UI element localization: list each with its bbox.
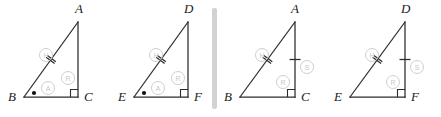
triangle-1-angle-dot-marker: [32, 91, 36, 95]
triangle-2-vertex-label-e: E: [117, 89, 126, 104]
triangle-3-vertex-label-a: A: [290, 1, 299, 16]
triangle-1-circled-letter-a: A: [42, 82, 55, 95]
triangle-2-vertex-label-f: F: [193, 89, 203, 104]
triangle-4-vertex-label-d: D: [400, 1, 411, 16]
triangle-3-circled-letter-r: R: [277, 76, 290, 89]
triangle-2: HARDEF: [117, 1, 203, 104]
triangle-4-hypotenuse-edge: [350, 22, 405, 97]
triangle-3-vertex-label-c: C: [301, 89, 310, 104]
triangle-2-circled-letter-r: R: [172, 72, 185, 85]
triangle-4-vertex-label-f: F: [410, 89, 420, 104]
triangle-4-circled-letter-s: S: [411, 61, 424, 74]
triangle-3-circled-letter-h: H: [256, 49, 269, 62]
triangle-4-circled-letter-h: H: [366, 49, 379, 62]
triangle-1-vertex-label-b: B: [8, 89, 16, 104]
triangle-3: HSRABC: [224, 1, 314, 104]
vertical-divider: [212, 8, 217, 109]
circled-letter-s-text: S: [415, 64, 420, 71]
circled-letter-h-text: H: [259, 52, 264, 59]
triangle-2-circled-letter-a: A: [152, 82, 165, 95]
triangle-1-circled-letter-r: R: [62, 72, 75, 85]
triangle-4-circled-letter-r: R: [387, 76, 400, 89]
triangle-3-hypotenuse-edge: [240, 22, 295, 97]
geometry-figure-canvas: HARABCHARDEFHSRABCHSRDEF: [0, 0, 441, 117]
triangle-2-right-angle-marker: [181, 90, 189, 98]
triangle-1-circled-letter-h: H: [40, 49, 53, 62]
triangle-2-vertex-label-d: D: [183, 1, 194, 16]
triangle-2-angle-dot-marker: [142, 91, 146, 95]
circled-letter-r-text: R: [280, 79, 285, 86]
triangle-3-vertex-label-b: B: [224, 89, 232, 104]
triangle-congruence-diagram: HARABCHARDEFHSRABCHSRDEF: [0, 0, 441, 117]
circled-letter-s-text: S: [305, 64, 310, 71]
triangle-3-circled-letter-s: S: [301, 61, 314, 74]
circled-letter-h-text: H: [153, 52, 158, 59]
triangle-1-right-angle-marker: [71, 90, 79, 98]
circled-letter-a-text: A: [156, 85, 161, 92]
triangle-1-vertex-label-c: C: [84, 89, 93, 104]
triangle-4: HSRDEF: [333, 1, 424, 104]
triangle-1-vertex-label-a: A: [74, 1, 83, 16]
triangle-3-right-angle-marker: [288, 90, 296, 98]
circled-letter-r-text: R: [175, 75, 180, 82]
triangle-4-vertex-label-e: E: [333, 89, 342, 104]
circled-letter-a-text: A: [46, 85, 51, 92]
triangle-4-right-angle-marker: [398, 90, 406, 98]
circled-letter-r-text: R: [390, 79, 395, 86]
triangle-2-circled-letter-h: H: [150, 49, 163, 62]
triangle-1: HARABC: [8, 1, 93, 104]
circled-letter-r-text: R: [65, 75, 70, 82]
circled-letter-h-text: H: [369, 52, 374, 59]
circled-letter-h-text: H: [43, 52, 48, 59]
